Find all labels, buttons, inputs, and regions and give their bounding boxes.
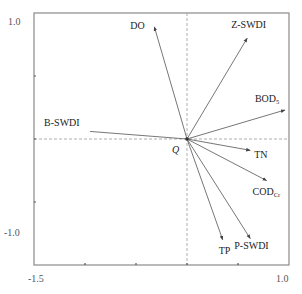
vector-label-p-swdi: P-SWDI (234, 240, 268, 251)
vector-arrow-do (154, 27, 187, 139)
vector-arrow-p-swdi (187, 139, 250, 239)
vector-group: DOZ-SWDIBOD5B-SWDITNCODCrP-SWDITP (44, 19, 285, 256)
biplot-chart: 1.0 -1.0 -1.5 1.0 DOZ-SWDIBOD5B-SWDITNCO… (0, 0, 302, 294)
vector-arrow-b-swdi (90, 131, 187, 139)
vector-label-bod5: BOD5 (255, 93, 279, 105)
x-tick-left: -1.5 (28, 273, 44, 284)
vector-label-codcr: CODCr (253, 186, 281, 198)
y-tick-top: 1.0 (8, 16, 21, 27)
origin-point (185, 137, 189, 141)
y-tick-bottom: -1.0 (4, 227, 20, 238)
x-tick-right: 1.0 (276, 273, 289, 284)
vector-arrow-tn (187, 139, 250, 150)
vector-label-b-swdi: B-SWDI (44, 117, 80, 128)
vector-label-z-swdi: Z-SWDI (231, 19, 266, 30)
vector-label-tp: TP (219, 245, 231, 256)
vector-label-do: DO (130, 20, 144, 31)
origin-label: Q (172, 144, 180, 155)
vector-arrow-tp (187, 139, 223, 240)
vector-label-tn: TN (254, 149, 267, 160)
